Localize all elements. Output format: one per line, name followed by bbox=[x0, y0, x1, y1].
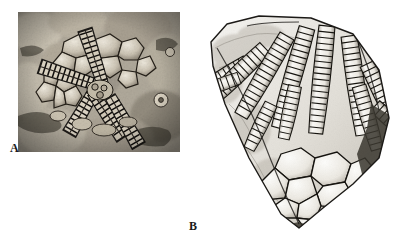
figure-plate: A bbox=[0, 0, 420, 245]
panel-b-label: B bbox=[189, 220, 197, 232]
panel-b-image bbox=[203, 8, 395, 236]
panel-a-image bbox=[18, 12, 180, 152]
panel-a-label: A bbox=[10, 142, 19, 154]
